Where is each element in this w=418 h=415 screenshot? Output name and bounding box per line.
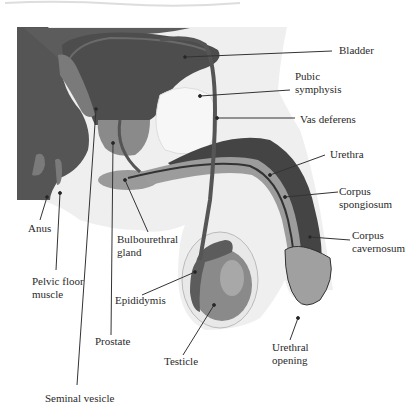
label-pelvic-floor-muscle: Pelvic floor muscle	[32, 275, 84, 300]
label-corpus-spongiosum: Corpus spongiosum	[339, 185, 392, 210]
label-anus: Anus	[28, 222, 51, 235]
label-pubic-symphysis: Pubic symphysis	[295, 70, 341, 95]
pubic-symphysis-shape	[156, 88, 218, 155]
label-prostate: Prostate	[95, 335, 130, 348]
label-urethral-opening: Urethral opening	[272, 341, 309, 366]
label-urethra: Urethra	[330, 148, 364, 161]
label-bladder: Bladder	[339, 44, 374, 57]
label-bulbourethral-gland: Bulbourethral gland	[117, 233, 178, 258]
label-vas-deferens: Vas deferens	[300, 113, 356, 126]
glans-shape	[285, 246, 331, 305]
label-corpus-cavernosum: Corpus cavernosum	[352, 229, 405, 254]
label-epididymis: Epididymis	[115, 294, 166, 307]
label-testicle: Testicle	[164, 355, 198, 368]
label-seminal-vesicle: Seminal vesicle	[45, 392, 114, 405]
